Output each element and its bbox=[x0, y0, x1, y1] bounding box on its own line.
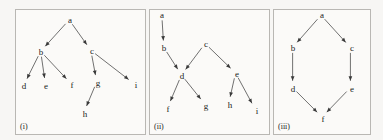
panel-caption: (ii) bbox=[154, 123, 164, 131]
panel-caption: (i) bbox=[20, 123, 28, 131]
node-label-i: i bbox=[256, 107, 259, 116]
arrowhead-c-to-i bbox=[124, 75, 129, 79]
arrowhead-b-to-e bbox=[42, 73, 46, 78]
node-label-a: a bbox=[160, 11, 164, 20]
node-label-f: f bbox=[322, 115, 325, 124]
node-label-a: a bbox=[68, 16, 72, 25]
node-label-f: f bbox=[71, 81, 74, 90]
arrowhead-a-to-b bbox=[161, 36, 165, 41]
edge-a-to-b bbox=[297, 19, 317, 42]
arrowhead-c-to-d bbox=[186, 65, 190, 70]
node-label-b: b bbox=[162, 44, 167, 53]
graph-edges bbox=[16, 10, 145, 134]
figure-container: abcdefghi(i)abcdefghi(ii)abcdef(iii) bbox=[0, 0, 383, 140]
node-label-b: b bbox=[39, 48, 44, 57]
node-label-c: c bbox=[90, 47, 94, 56]
node-label-d: d bbox=[180, 72, 185, 81]
node-label-g: g bbox=[96, 79, 101, 88]
node-label-e: e bbox=[235, 70, 239, 79]
node-label-d: d bbox=[291, 85, 296, 94]
edge-a-to-c bbox=[325, 19, 346, 42]
node-label-f: f bbox=[167, 105, 170, 114]
node-label-b: b bbox=[291, 44, 296, 53]
arrowhead-c-to-e bbox=[349, 76, 353, 81]
node-label-a: a bbox=[320, 11, 324, 20]
node-label-i: i bbox=[135, 81, 138, 90]
panel-caption: (iii) bbox=[278, 123, 290, 131]
edge-b-to-f bbox=[44, 55, 66, 79]
arrowhead-g-to-h bbox=[87, 101, 90, 106]
node-label-e: e bbox=[350, 85, 354, 94]
arrowhead-a-to-c bbox=[83, 40, 87, 45]
arrowhead-d-to-f bbox=[170, 96, 173, 101]
arrowhead-b-to-d bbox=[291, 76, 295, 81]
node-label-e: e bbox=[44, 82, 48, 91]
edge-a-to-b bbox=[45, 24, 65, 46]
node-label-c: c bbox=[204, 40, 208, 49]
arrowhead-c-to-g bbox=[93, 70, 97, 75]
graph-edges bbox=[150, 10, 269, 134]
node-label-d: d bbox=[22, 82, 27, 91]
node-label-h: h bbox=[228, 101, 233, 110]
arrowhead-b-to-d bbox=[174, 64, 178, 69]
graph-panel-iii: abcdef(iii) bbox=[273, 9, 371, 135]
edge-c-to-i bbox=[95, 54, 129, 80]
arrowhead-e-to-h bbox=[229, 92, 233, 97]
graph-panel-ii: abcdefghi(ii) bbox=[149, 9, 270, 135]
graph-panel-i: abcdefghi(i) bbox=[15, 9, 146, 135]
node-label-h: h bbox=[83, 110, 88, 119]
node-label-g: g bbox=[204, 102, 209, 111]
node-label-c: c bbox=[350, 44, 354, 53]
